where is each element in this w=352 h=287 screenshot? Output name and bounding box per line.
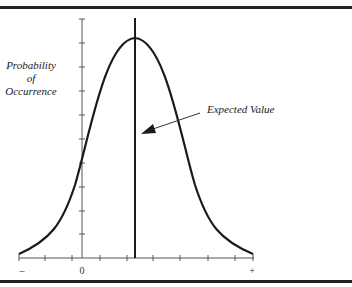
x-tick-minus: – <box>19 265 26 276</box>
x-tick-zero: 0 <box>80 265 85 276</box>
x-axis <box>19 254 254 261</box>
y-axis-label-line2: of <box>27 72 38 84</box>
arrow-icon <box>141 113 200 134</box>
top-border <box>0 6 352 9</box>
expected-value-label: Expected Value <box>206 103 275 115</box>
bottom-border <box>0 280 352 283</box>
y-axis-label-line3: Occurrence <box>5 85 57 97</box>
x-tick-plus: + <box>249 265 255 276</box>
y-axis <box>79 19 85 258</box>
probability-diagram: Probability of Occurrence Expected Value… <box>0 0 352 287</box>
y-axis-label-line1: Probability <box>5 59 56 71</box>
